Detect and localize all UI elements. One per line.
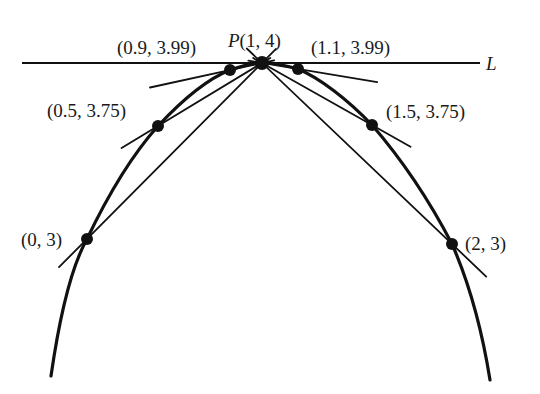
point-label-1.5-3.75: (1.5, 3.75): [386, 101, 465, 123]
point-marker-0.9-3.99: [224, 64, 236, 76]
point-marker-0.5-3.75: [152, 120, 164, 132]
point-P-label: P(1, 4): [227, 30, 281, 52]
point-marker-1.5-3.75: [366, 119, 378, 131]
point-marker-1.1-3.99: [292, 63, 304, 75]
secant-tangent-figure: L P(1, 4) (0, 3) (0.5, 3.75) (0.9, 3.99)…: [0, 0, 540, 394]
point-label-0.9-3.99: (0.9, 3.99): [117, 37, 196, 59]
secant-line-0-3: [59, 49, 276, 267]
secant-line-0.5-3.75: [122, 58, 271, 148]
point-marker-2-3: [446, 238, 458, 250]
point-marker-0-3: [81, 233, 93, 245]
point-label-1.1-3.99: (1.1, 3.99): [311, 37, 390, 59]
point-label-0-3: (0, 3): [21, 229, 62, 251]
tangent-line-label: L: [485, 53, 497, 74]
point-P-marker: [255, 56, 269, 70]
point-label-0.5-3.75: (0.5, 3.75): [47, 100, 126, 122]
point-label-2-3: (2, 3): [465, 233, 506, 255]
